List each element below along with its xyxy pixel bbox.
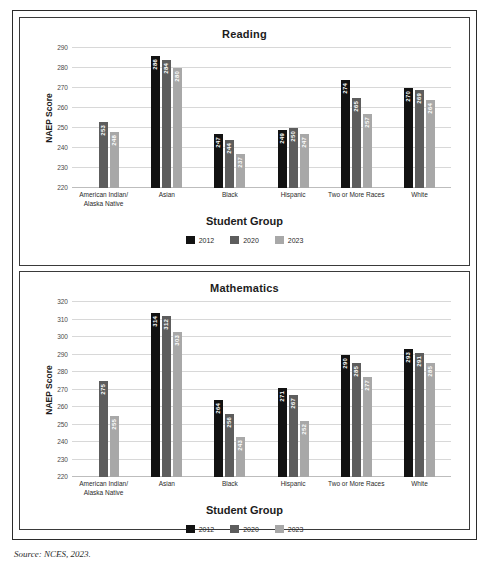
source-note: Source: NCES, 2023. [12, 549, 477, 559]
bar[interactable]: 255 [110, 416, 119, 477]
bar[interactable]: 271 [278, 388, 287, 477]
bar[interactable]: 293 [404, 349, 413, 477]
bar-value-label: 255 [110, 419, 119, 430]
y-tick-label: 270 [57, 385, 68, 392]
reading-y-axis-label: NAEP Score [44, 93, 54, 142]
bar[interactable]: 284 [162, 60, 171, 188]
bar-value-label: 293 [404, 352, 413, 363]
bar-value-label: 271 [278, 391, 287, 402]
y-tick-label: 230 [57, 455, 68, 462]
bar-group: 271267252 [262, 302, 325, 477]
reading-title: Reading [20, 18, 469, 42]
category-label: Black [198, 188, 261, 214]
bar[interactable]: 252 [300, 421, 309, 477]
category-label: Black [198, 477, 261, 503]
bar[interactable]: 257 [363, 114, 372, 188]
bar[interactable]: 274 [341, 80, 350, 188]
bar-groups: 2752553143123032642562432712672522902852… [72, 302, 451, 477]
bar[interactable]: 250 [289, 128, 298, 188]
reading-legend: 201220202023 [20, 236, 469, 244]
bar[interactable]: 314 [151, 313, 160, 478]
y-tick-label: 310 [57, 315, 68, 322]
y-tick-label: 300 [57, 333, 68, 340]
bar[interactable]: 285 [426, 363, 435, 477]
legend-label: 2012 [199, 526, 215, 533]
bar[interactable]: 248 [110, 132, 119, 188]
bar[interactable]: 237 [236, 154, 245, 188]
bar[interactable]: 267 [289, 395, 298, 477]
reading-category-labels: American Indian/Alaska NativeAsianBlackH… [72, 188, 451, 214]
legend-label: 2023 [288, 526, 304, 533]
bar[interactable]: 290 [341, 355, 350, 478]
bar[interactable]: 247 [300, 134, 309, 188]
bar-value-label: 275 [99, 384, 108, 395]
bar-value-label: 274 [341, 83, 350, 94]
bar-value-label: 267 [289, 398, 298, 409]
bar[interactable]: 275 [99, 381, 108, 477]
math-legend: 201220202023 [20, 525, 469, 533]
y-tick-label: 270 [57, 84, 68, 91]
bar[interactable]: 291 [415, 353, 424, 477]
math-y-axis-label: NAEP Score [44, 365, 54, 414]
math-panel: Mathematics NAEP Score 22023024025026027… [19, 271, 470, 530]
math-x-axis-label: Student Group [20, 504, 469, 516]
y-tick-label: 230 [57, 164, 68, 171]
legend-item[interactable]: 2023 [275, 236, 304, 244]
bar-value-label: 248 [110, 135, 119, 146]
category-label: Asian [135, 188, 198, 214]
category-label: Hispanic [262, 188, 325, 214]
category-label: White [388, 477, 451, 503]
bar[interactable]: 312 [162, 316, 171, 477]
reading-plot-area: NAEP Score 22023024025026027028029025324… [26, 48, 455, 188]
bar[interactable]: 253 [99, 122, 108, 188]
bar[interactable]: 270 [404, 88, 413, 188]
math-plot-area: NAEP Score 22023024025026027028029030031… [26, 302, 455, 477]
bar-value-label: 253 [99, 125, 108, 136]
figure-page: Reading NAEP Score 220230240250260270280… [0, 0, 489, 571]
math-category-labels: American Indian/Alaska NativeAsianBlackH… [72, 477, 451, 503]
bar[interactable]: 286 [151, 56, 160, 188]
bar[interactable]: 247 [214, 134, 223, 188]
legend-label: 2020 [243, 526, 259, 533]
category-label: Two or More Races [325, 477, 388, 503]
legend-item[interactable]: 2023 [275, 525, 304, 533]
bar-value-label: 312 [162, 319, 171, 330]
bar-value-label: 257 [363, 117, 372, 128]
bar[interactable]: 264 [214, 400, 223, 477]
bar-value-label: 243 [236, 440, 245, 451]
legend-item[interactable]: 2020 [230, 236, 259, 244]
category-label: Hispanic [262, 477, 325, 503]
bar[interactable]: 303 [173, 332, 182, 477]
bar[interactable]: 243 [236, 437, 245, 477]
bar[interactable]: 249 [278, 130, 287, 188]
bar-value-label: 269 [415, 93, 424, 104]
bar[interactable]: 256 [225, 414, 234, 477]
bar-group: 253248 [72, 48, 135, 188]
bar-group: 275255 [72, 302, 135, 477]
bar[interactable]: 277 [363, 377, 372, 477]
bar-group: 249250247 [262, 48, 325, 188]
y-tick-label: 220 [57, 473, 68, 480]
bar-group: 264256243 [198, 302, 261, 477]
legend-item[interactable]: 2012 [186, 525, 215, 533]
bar[interactable]: 280 [173, 68, 182, 188]
bar[interactable]: 265 [352, 98, 361, 188]
bar-value-label: 285 [352, 366, 361, 377]
legend-swatch [230, 525, 239, 533]
legend-label: 2012 [199, 237, 215, 244]
bar[interactable]: 285 [352, 363, 361, 477]
bar[interactable]: 244 [225, 140, 234, 188]
bar-value-label: 284 [162, 63, 171, 74]
bar-group: 274265257 [325, 48, 388, 188]
legend-label: 2020 [243, 237, 259, 244]
bar[interactable]: 264 [426, 100, 435, 188]
bar[interactable]: 269 [415, 90, 424, 188]
bar-value-label: 247 [214, 137, 223, 148]
legend-swatch [186, 525, 195, 533]
y-tick-label: 250 [57, 124, 68, 131]
y-tick-label: 240 [57, 438, 68, 445]
y-tick-label: 290 [57, 350, 68, 357]
legend-item[interactable]: 2020 [230, 525, 259, 533]
y-tick-label: 250 [57, 420, 68, 427]
legend-item[interactable]: 2012 [186, 236, 215, 244]
